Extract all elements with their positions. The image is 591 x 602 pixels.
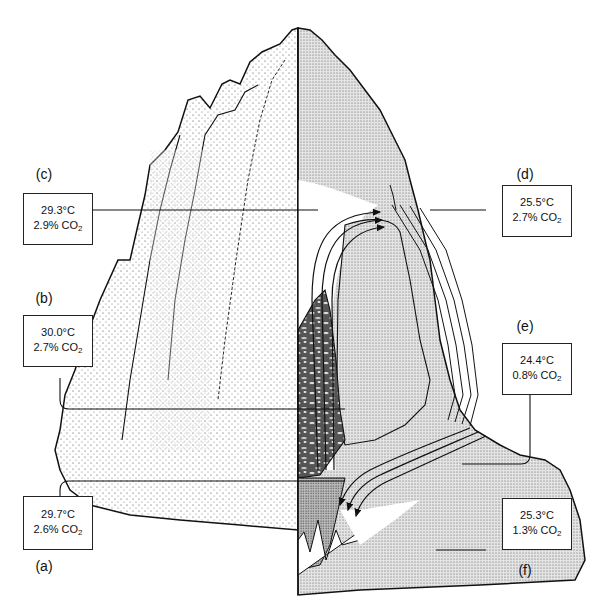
temperature-a: 29.7°C — [41, 507, 75, 522]
label-letter-c: (c) — [24, 166, 64, 182]
label-letter-a: (a) — [24, 558, 64, 574]
label-letter-f: (f) — [505, 562, 545, 578]
co2-f: 1.3% CO2 — [512, 523, 561, 541]
temperature-b: 30.0°C — [41, 325, 75, 340]
termite-mound-diagram: (c) 29.3°C 2.9% CO2 (b) 30.0°C 2.7% CO2 … — [0, 0, 591, 602]
temperature-d: 25.5°C — [520, 195, 554, 210]
measurement-box-f: 25.3°C 1.3% CO2 — [502, 498, 572, 550]
temperature-e: 24.4°C — [520, 353, 554, 368]
measurement-box-e: 24.4°C 0.8% CO2 — [502, 343, 572, 395]
temperature-c: 29.3°C — [41, 203, 75, 218]
temperature-f: 25.3°C — [520, 508, 554, 523]
co2-c: 2.9% CO2 — [33, 218, 82, 236]
label-letter-d: (d) — [505, 166, 545, 182]
label-letter-e: (e) — [505, 318, 545, 334]
co2-e: 0.8% CO2 — [512, 368, 561, 386]
measurement-box-d: 25.5°C 2.7% CO2 — [502, 185, 572, 237]
measurement-box-a: 29.7°C 2.6% CO2 — [23, 496, 93, 550]
label-letter-b: (b) — [24, 290, 64, 306]
co2-a: 2.6% CO2 — [33, 522, 82, 540]
mound-exterior — [55, 28, 298, 530]
measurement-box-c: 29.3°C 2.9% CO2 — [23, 193, 93, 245]
co2-b: 2.7% CO2 — [33, 340, 82, 358]
measurement-box-b: 30.0°C 2.7% CO2 — [23, 315, 93, 367]
co2-d: 2.7% CO2 — [512, 210, 561, 228]
